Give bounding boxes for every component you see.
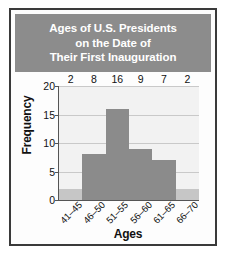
x-axis-label: Ages: [58, 227, 198, 241]
bar: 7: [152, 160, 175, 200]
chart-title-line-2: on the Date of: [75, 36, 150, 51]
x-axis-tick-label: 51–55: [104, 199, 130, 225]
x-axis-tick-label: 61–65: [151, 199, 177, 225]
bar-column: 956–60: [129, 86, 152, 200]
y-axis-tick-label: 20: [43, 80, 55, 92]
x-axis-tick-label: 46–50: [81, 199, 107, 225]
bar: 2: [176, 189, 199, 200]
bar: 8: [82, 154, 105, 200]
bar-value-label: 2: [68, 74, 74, 85]
x-axis-tick-label: 56–60: [127, 199, 153, 225]
bar-column: 266–70: [176, 86, 199, 200]
x-axis-tick-label: 41–45: [57, 199, 83, 225]
bar-column: 846–50: [82, 86, 105, 200]
y-axis-tick-label: 10: [43, 137, 55, 149]
y-axis-tick-mark: [55, 200, 59, 201]
chart-figure: Ages of U.S. Presidents on the Date of T…: [9, 8, 217, 246]
bar-value-label: 16: [111, 74, 123, 85]
bar-column: 1651–55: [106, 86, 129, 200]
chart-title: Ages of U.S. Presidents on the Date of T…: [15, 14, 211, 72]
bar: 16: [106, 109, 129, 200]
plot-area: 05101520 241–45846–501651–55956–60761–65…: [58, 86, 199, 201]
plot-wrapper: Frequency 05101520 241–45846–501651–5595…: [11, 72, 215, 244]
x-axis-tick-label: 66–70: [174, 199, 200, 225]
bar-column: 761–65: [152, 86, 175, 200]
bar: 9: [129, 149, 152, 200]
y-axis-label: Frequency: [20, 85, 34, 165]
y-axis-tick-label: 15: [43, 109, 55, 121]
bar: 2: [59, 189, 82, 200]
bar-value-label: 9: [138, 74, 144, 85]
chart-title-line-1: Ages of U.S. Presidents: [49, 21, 176, 36]
bar-value-label: 2: [184, 74, 190, 85]
bar-series: 241–45846–501651–55956–60761–65266–70: [59, 86, 199, 200]
bar-value-label: 7: [161, 74, 167, 85]
bar-column: 241–45: [59, 86, 82, 200]
bar-value-label: 8: [91, 74, 97, 85]
chart-title-line-3: Their First Inauguration: [50, 50, 177, 65]
